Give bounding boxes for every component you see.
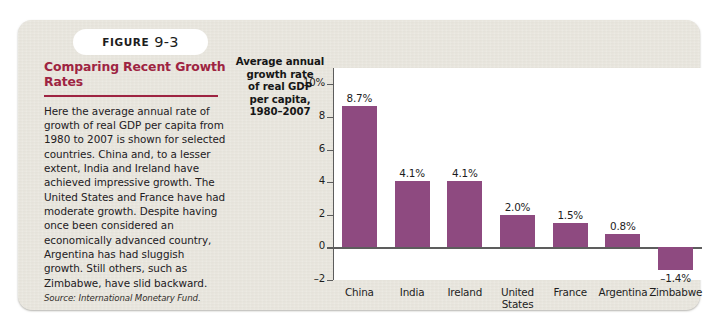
figure-label: FIGURE (102, 36, 149, 48)
y-axis-tick-label: 4 (285, 175, 325, 186)
x-axis-label-argentina: Argentina (595, 286, 651, 298)
bar-value-label: 0.8% (591, 220, 655, 232)
bar-china[interactable] (342, 106, 377, 248)
bar-value-label: 4.1% (433, 167, 497, 179)
figure-title: Comparing Recent Growth Rates (44, 60, 226, 89)
x-axis-label-united-states: UnitedStates (490, 286, 546, 310)
bar-france[interactable] (553, 223, 588, 247)
chart-region: Average annualgrowth rateof real GDPper … (226, 48, 706, 310)
x-axis-label-line: States (490, 298, 546, 310)
figure-number: 9-3 (154, 34, 179, 50)
x-axis-label-zimbabwe: Zimbabwe (648, 286, 704, 298)
y-axis-tick-label: –2 (285, 273, 325, 284)
y-axis-tick-label: 2 (285, 208, 325, 219)
figure-source: Source: International Monetary Fund. (44, 293, 226, 303)
title-divider (44, 95, 218, 97)
caption-column: Comparing Recent Growth Rates Here the a… (44, 60, 226, 303)
y-axis-tick-label: 10% (285, 77, 325, 88)
figure-card: FIGURE 9-3 Comparing Recent Growth Rates… (18, 20, 700, 310)
x-axis-label-line: United (490, 286, 546, 298)
y-axis-tick-label: 6 (285, 143, 325, 154)
x-axis-label-india: India (384, 286, 440, 298)
y-axis-tick-label: 8 (285, 110, 325, 121)
bar-ireland[interactable] (447, 181, 482, 248)
bar-zimbabwe[interactable] (658, 247, 693, 270)
y-axis-tick (327, 280, 333, 281)
y-axis-title-line: per capita, (228, 94, 332, 107)
y-axis-tick (327, 150, 333, 151)
zero-baseline (333, 247, 702, 248)
bar-united-states[interactable] (500, 215, 535, 248)
bar-value-label: –1.4% (644, 272, 708, 284)
bar-argentina[interactable] (605, 234, 640, 247)
x-axis-label-china: China (331, 286, 387, 298)
bar-india[interactable] (395, 181, 430, 248)
figure-description: Here the average annual rate of growth o… (44, 104, 226, 290)
y-axis-tick (327, 117, 333, 118)
y-axis-tick-label: 0 (285, 240, 325, 251)
x-axis-label-ireland: Ireland (437, 286, 493, 298)
bar-value-label: 8.7% (327, 92, 391, 104)
y-axis-tick (327, 247, 333, 248)
figure-number-tab: FIGURE 9-3 (73, 29, 208, 55)
y-axis-tick (327, 215, 333, 216)
bar-value-label: 1.5% (538, 209, 602, 221)
y-axis-tick (327, 182, 333, 183)
x-axis-label-france: France (542, 286, 598, 298)
y-axis-tick (327, 84, 333, 85)
y-axis-title-line: Average annual (228, 56, 332, 69)
